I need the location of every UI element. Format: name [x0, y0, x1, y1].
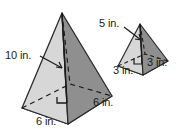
large-pyramid-height-label: 10 in.	[5, 50, 31, 61]
large-pyramid-base-front-label: 6 in.	[36, 116, 56, 127]
geometry-figure: 10 in. 6 in. 6 in. 5 in. 3 in. 3 in.	[0, 0, 180, 132]
small-pyramid-base-front-label: 3 in.	[113, 65, 133, 76]
large-pyramid-left-face	[22, 13, 68, 124]
small-pyramid-base-right-label: 3 in.	[147, 57, 167, 68]
large-pyramid-base-right-label: 6 in.	[93, 97, 113, 108]
small-pyramid-height-label: 5 in.	[99, 18, 119, 29]
